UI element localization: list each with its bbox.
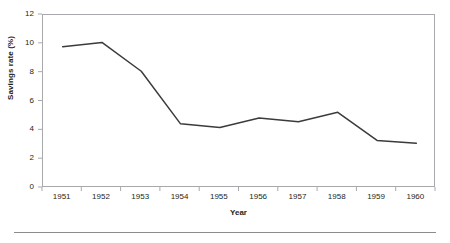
x-tick-label: 1952 — [92, 192, 110, 202]
footer-divider — [14, 232, 436, 233]
line-series-svg — [43, 15, 436, 188]
x-tick-label: 1957 — [289, 192, 307, 202]
x-axis-tick-labels: 1951195219531954195519561957195819591960 — [42, 192, 435, 204]
x-tick-label: 1953 — [131, 192, 149, 202]
x-tick-label: 1955 — [210, 192, 228, 202]
x-axis-title: Year — [42, 208, 435, 218]
y-tick-label: 8 — [30, 68, 34, 76]
y-tick-label: 6 — [30, 97, 34, 105]
x-tick-label: 1956 — [249, 192, 267, 202]
y-axis-tick-labels: 024681012 — [0, 0, 40, 243]
y-tick-label: 10 — [25, 39, 34, 47]
x-tick-label: 1954 — [171, 192, 189, 202]
y-tick-label: 4 — [30, 125, 34, 133]
x-tick-label: 1959 — [367, 192, 385, 202]
y-tick-label: 0 — [30, 183, 34, 191]
x-tick-label: 1958 — [328, 192, 346, 202]
savings-rate-line — [63, 42, 417, 143]
y-tick-label: 2 — [30, 154, 34, 162]
plot-area — [42, 14, 435, 187]
x-tick-label: 1960 — [406, 192, 424, 202]
x-tick-label: 1951 — [53, 192, 71, 202]
y-tick-label: 12 — [25, 10, 34, 18]
chart-figure: Savings rate (%) 024681012 1951195219531… — [0, 0, 450, 243]
